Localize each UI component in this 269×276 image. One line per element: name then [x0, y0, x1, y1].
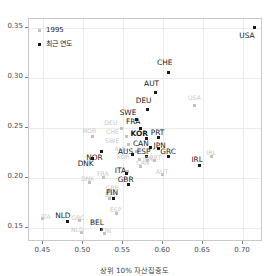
gridline-horizontal — [29, 228, 261, 229]
x-tick-mark — [202, 241, 203, 244]
legend-item-1995[interactable]: 1995 — [37, 25, 72, 36]
chart-legend: 1995 최근 연도 — [37, 25, 72, 53]
point-label-che: CHE — [106, 129, 119, 135]
data-point-usa[interactable] — [253, 26, 256, 29]
point-label-esp: ESP — [137, 148, 151, 155]
data-point-che[interactable] — [125, 135, 128, 138]
legend-label: 최근 연도 — [46, 41, 72, 48]
point-label-gbr: GBR — [118, 176, 134, 183]
point-label-fra: FRA — [97, 171, 109, 177]
x-tick-label: 0.55 — [114, 247, 130, 254]
y-tick-label: 0.25 — [7, 123, 23, 130]
x-tick-mark — [122, 241, 123, 244]
point-label-grc: GRC — [71, 215, 84, 221]
y-tick-label: 0.20 — [7, 173, 23, 180]
point-label-aut: AUT — [156, 168, 169, 174]
point-label-che: CHE — [157, 59, 172, 66]
gridline-vertical — [123, 19, 124, 240]
point-label-nld: NLD — [55, 212, 70, 219]
point-label-aut: AUT — [144, 80, 159, 87]
x-tick-label: 0.50 — [75, 247, 91, 254]
point-label-swe: SWE — [120, 109, 137, 116]
legend-marker-icon — [38, 29, 41, 32]
point-label-swe: SWE — [105, 138, 119, 144]
point-label-prt: PRT — [151, 129, 165, 136]
point-label-fin: FIN — [101, 227, 111, 233]
data-point-deu[interactable] — [146, 108, 149, 111]
x-tick-mark — [42, 241, 43, 244]
point-label-fra: FRA — [126, 118, 140, 125]
gridline-vertical — [203, 19, 204, 240]
data-point-usa[interactable] — [193, 104, 196, 107]
point-label-can: CAN — [133, 140, 149, 147]
point-label-nor: NOR — [82, 128, 96, 134]
x-tick-label: 0.65 — [194, 247, 210, 254]
data-point-deu[interactable] — [120, 127, 123, 130]
y-tick-label: 0.30 — [7, 73, 23, 80]
data-point-nor[interactable] — [91, 135, 94, 138]
legend-marker-icon — [38, 43, 41, 46]
x-tick-mark — [162, 241, 163, 244]
point-label-aus: AUS — [118, 148, 133, 155]
point-label-dnk: DNK — [78, 161, 94, 168]
scatter-chart-figure: 상위 1% 자산집중도 0.150.200.250.300.35 0.450.5… — [0, 0, 269, 276]
gridline-vertical — [243, 19, 244, 240]
point-label-usa: USA — [239, 32, 254, 39]
y-tick-label: 0.15 — [7, 223, 23, 230]
data-point-aut[interactable] — [154, 91, 157, 94]
data-point-che[interactable] — [167, 71, 170, 74]
point-label-usa: USA — [188, 94, 201, 100]
x-tick-label: 0.45 — [35, 247, 51, 254]
point-label-ita: ITA — [115, 167, 126, 174]
point-label-nld: NLD — [71, 226, 84, 232]
point-label-irl: IRL — [191, 156, 202, 163]
point-label-grc: GRC — [160, 148, 176, 155]
point-label-kor: KOR — [131, 131, 148, 138]
x-tick-mark — [82, 241, 83, 244]
x-axis-title: 상위 10% 자산집중도 — [0, 267, 269, 274]
x-tick-label: 0.70 — [234, 247, 250, 254]
gridline-horizontal — [29, 128, 261, 129]
gridline-horizontal — [29, 178, 261, 179]
data-point-irl[interactable] — [198, 164, 201, 167]
x-tick-label: 0.60 — [154, 247, 170, 254]
legend-label: 1995 — [46, 27, 64, 34]
point-label-fin: FIN — [106, 189, 118, 196]
point-label-deu: DEU — [104, 120, 117, 126]
point-label-deu: DEU — [136, 97, 152, 104]
point-label-irl: IRL — [206, 149, 216, 155]
point-label-dnk: DNK — [81, 176, 94, 182]
point-label-ita: ITA — [41, 213, 50, 219]
plot-panel: USADEUCHESWEAUSKORCANNORJPNPRTAUTFRADNKG… — [28, 18, 262, 241]
point-label-bel: BEL — [90, 220, 104, 227]
point-label-prt: PRT — [150, 155, 161, 161]
point-label-esp: ESP — [110, 207, 122, 213]
y-tick-label: 0.35 — [7, 23, 23, 30]
x-tick-mark — [242, 241, 243, 244]
legend-item-recent[interactable]: 최근 연도 — [37, 39, 72, 50]
data-point-nld[interactable] — [66, 220, 69, 223]
